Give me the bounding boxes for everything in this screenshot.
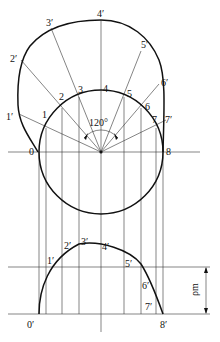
label-2p: 2′: [10, 53, 17, 64]
label-1p: 1′: [6, 111, 13, 122]
label-7p: 7′: [165, 114, 172, 125]
curve-label-0: 0′: [27, 319, 34, 330]
label-4: 4: [103, 83, 108, 94]
label-0: 0: [29, 146, 34, 157]
curve-label-5: 5′: [125, 258, 132, 269]
curve-label-3: 3′: [81, 236, 88, 247]
angle-label: 120°: [89, 117, 108, 128]
curve-label-6: 6′: [142, 280, 149, 291]
label-3p: 3′: [46, 17, 53, 28]
label-8: 8: [166, 146, 171, 157]
label-4p: 4′: [97, 8, 104, 19]
label-6: 6: [145, 101, 150, 112]
arrow-up-icon: [204, 267, 208, 273]
label-1: 1: [42, 109, 47, 120]
label-6p: 6′: [161, 77, 168, 88]
label-7: 7: [152, 114, 157, 125]
pm-dimension-label: ρm: [189, 283, 200, 296]
label-3: 3: [78, 84, 83, 95]
label-2: 2: [59, 91, 64, 102]
label-5p: 5′: [141, 39, 148, 50]
center-point: [99, 150, 102, 153]
arrow-down-icon: [204, 308, 208, 314]
label-5: 5: [127, 88, 132, 99]
cam-diagram: 120° 0 1 2 3 4 5 6 7 8 1′ 2′ 3′ 4′ 5′ 6′…: [0, 0, 220, 342]
curve-label-4: 4′: [102, 241, 109, 252]
curve-label-1: 1′: [47, 255, 54, 266]
curve-label-8: 8′: [160, 319, 167, 330]
curve-label-2: 2′: [64, 240, 71, 251]
curve-label-7: 7′: [145, 301, 152, 312]
